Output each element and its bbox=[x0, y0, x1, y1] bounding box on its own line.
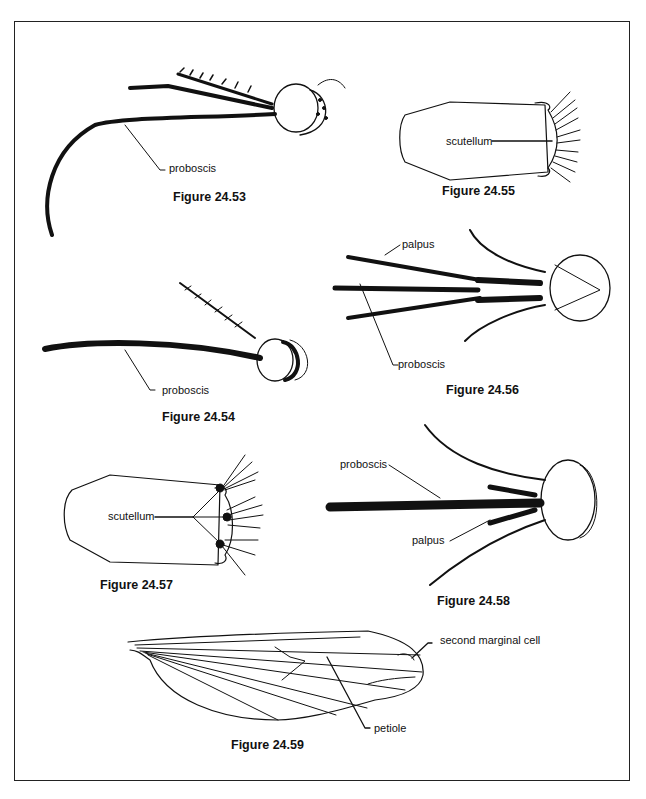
figure-24-54-drawing bbox=[45, 283, 308, 390]
label-palpus-2458: palpus bbox=[412, 534, 444, 546]
caption-figure-24-59: Figure 24.59 bbox=[231, 738, 304, 752]
label-proboscis-2458: proboscis bbox=[340, 458, 387, 470]
label-proboscis-2454: proboscis bbox=[162, 384, 209, 396]
label-scutellum-2455: scutellum bbox=[446, 135, 492, 147]
figure-24-56-drawing bbox=[335, 230, 610, 365]
label-second-marginal-cell: second marginal cell bbox=[440, 634, 540, 646]
label-proboscis-2456: proboscis bbox=[398, 358, 445, 370]
figure-24-53-drawing bbox=[47, 68, 345, 235]
caption-figure-24-53: Figure 24.53 bbox=[173, 190, 246, 204]
label-scutellum-2457: scutellum bbox=[108, 510, 154, 522]
illustrations bbox=[0, 0, 646, 799]
label-palpus-2456: palpus bbox=[402, 238, 434, 250]
figure-24-57-drawing bbox=[64, 455, 263, 575]
caption-figure-24-55: Figure 24.55 bbox=[442, 184, 515, 198]
label-petiole: petiole bbox=[374, 722, 406, 734]
caption-figure-24-54: Figure 24.54 bbox=[162, 410, 235, 424]
caption-figure-24-58: Figure 24.58 bbox=[437, 594, 510, 608]
caption-figure-24-56: Figure 24.56 bbox=[446, 383, 519, 397]
figure-24-59-drawing bbox=[128, 631, 432, 728]
figure-24-58-drawing bbox=[330, 425, 597, 585]
caption-figure-24-57: Figure 24.57 bbox=[100, 578, 173, 592]
label-proboscis-2453: proboscis bbox=[169, 162, 216, 174]
